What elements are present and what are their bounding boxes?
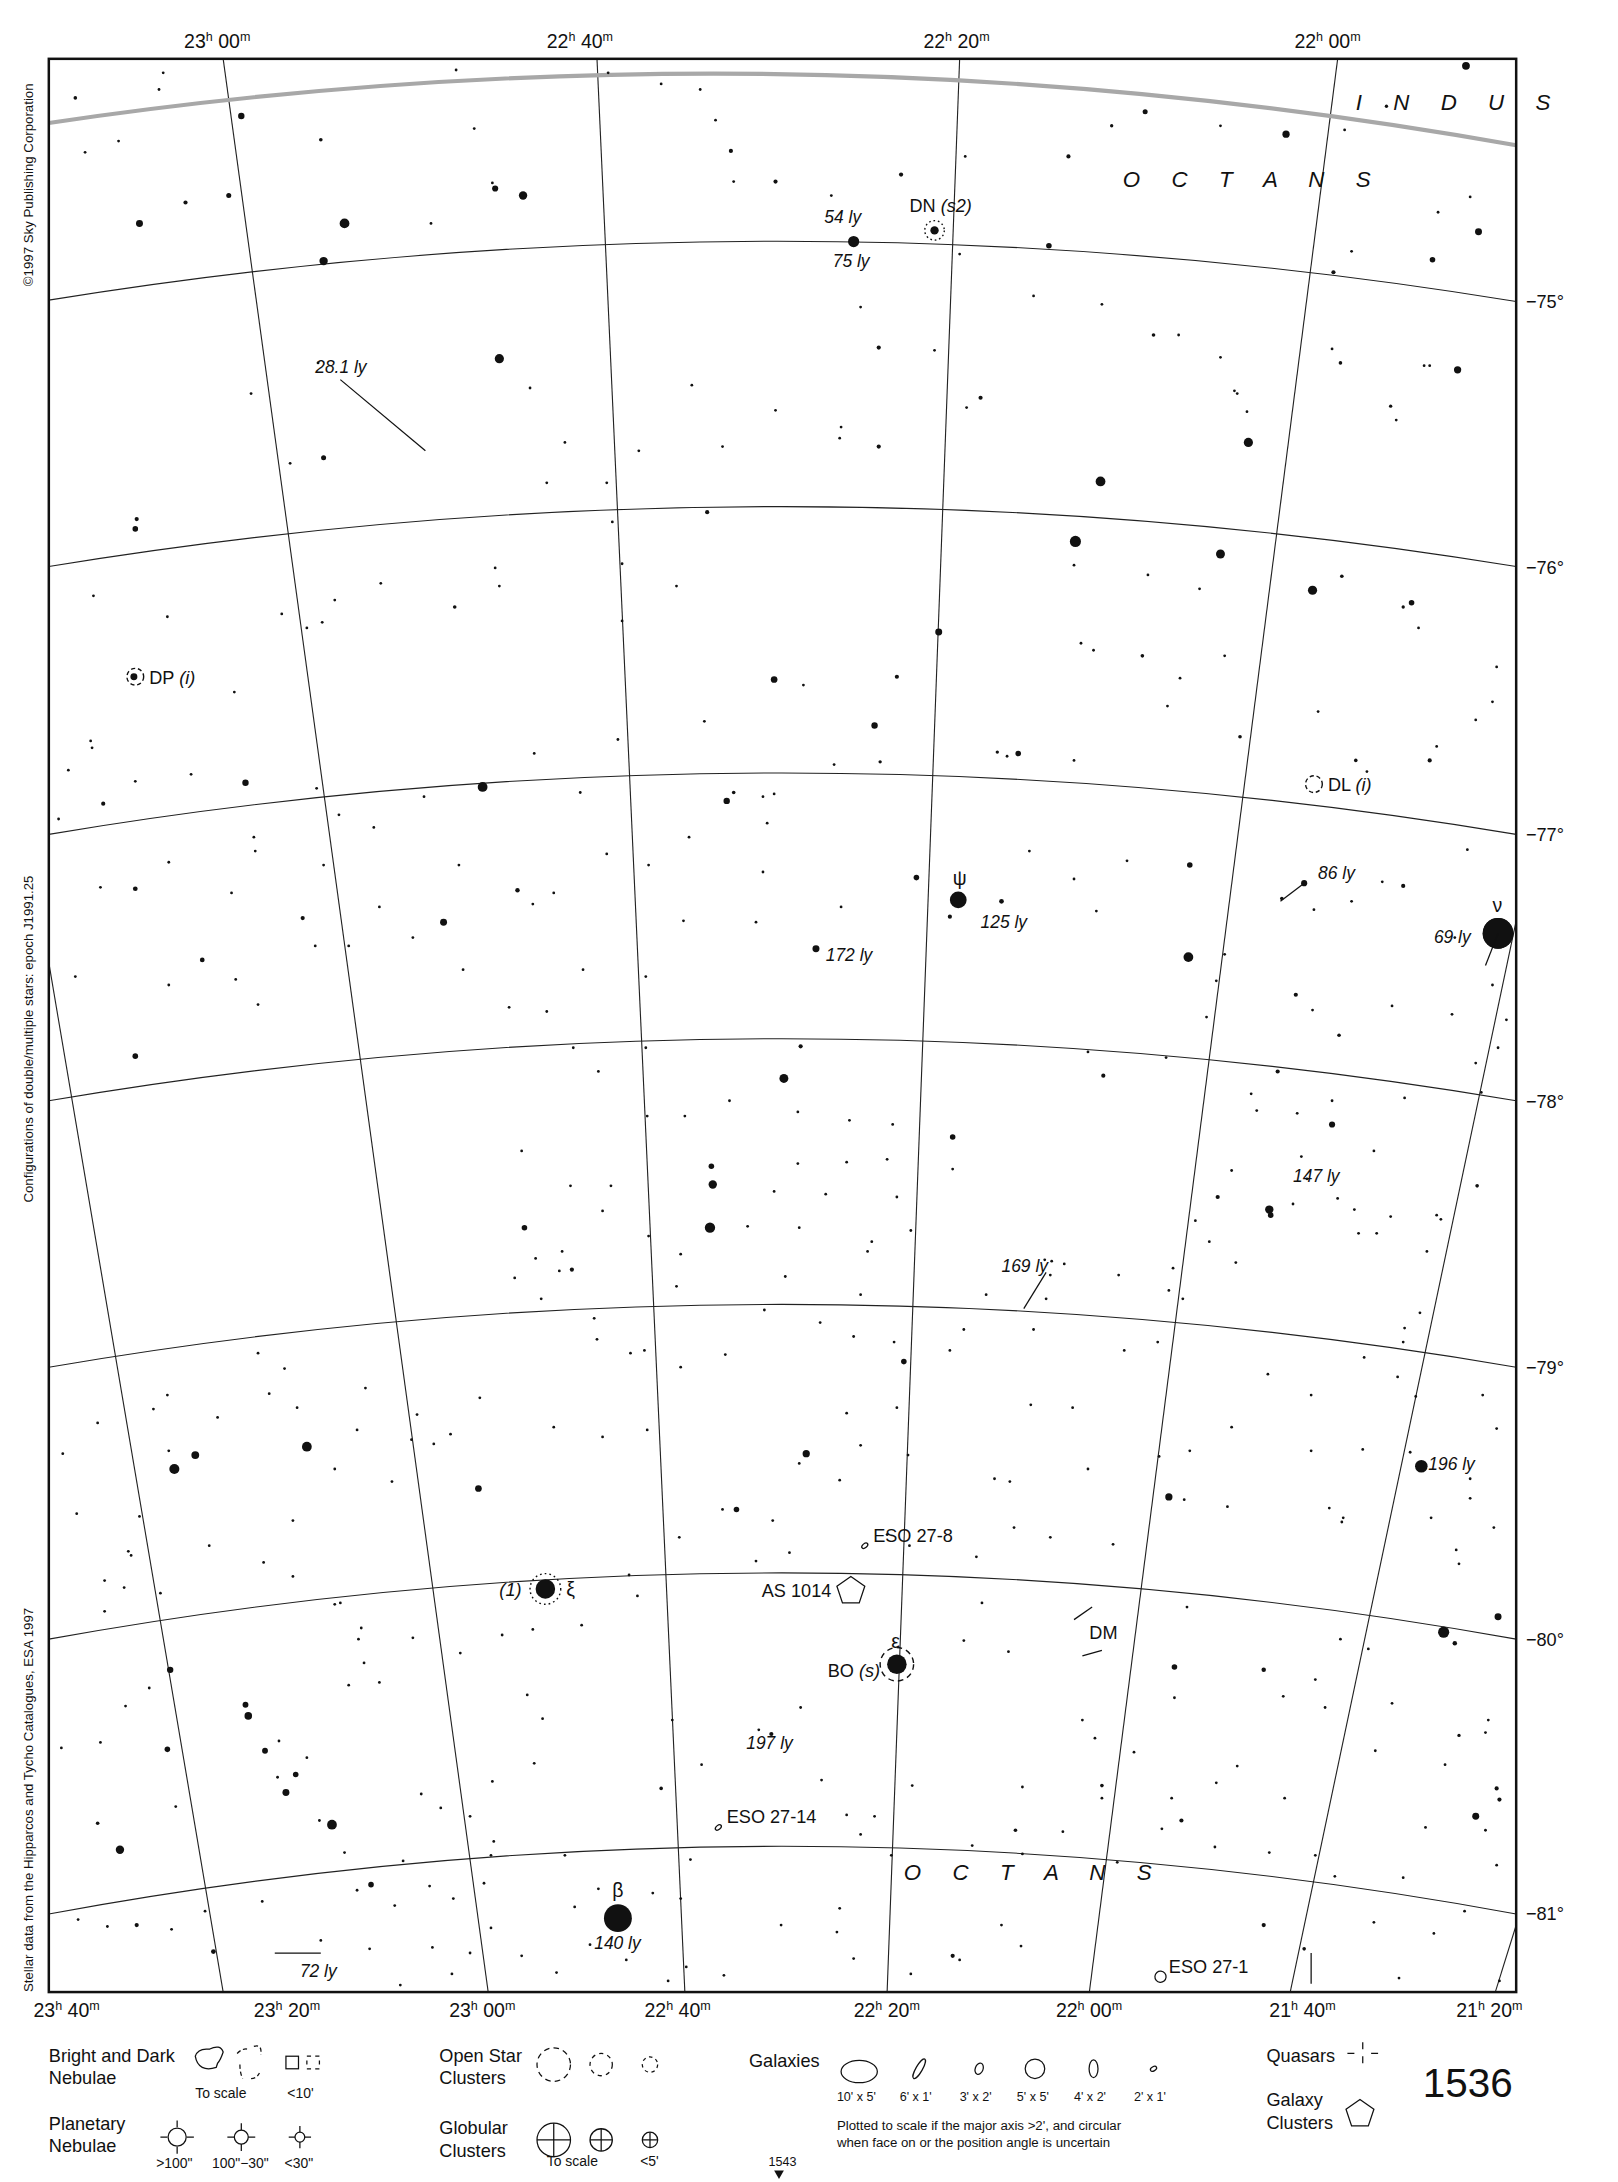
star — [1426, 1250, 1429, 1253]
star — [679, 1253, 682, 1256]
star — [1186, 1606, 1189, 1609]
globular-cluster-medium-icon — [590, 2129, 612, 2151]
adjacent-page-arrow-icon[interactable] — [774, 2171, 784, 2179]
star — [647, 864, 650, 867]
bright-star — [887, 1655, 907, 1675]
star — [1276, 1069, 1280, 1073]
star — [755, 1560, 758, 1563]
star — [208, 1544, 211, 1547]
star — [1029, 1403, 1032, 1406]
star — [734, 1507, 740, 1513]
distance-label: 75 ly — [833, 251, 871, 271]
star — [1402, 1876, 1405, 1879]
star — [675, 1285, 678, 1288]
star — [167, 861, 170, 864]
star — [347, 945, 350, 948]
star — [1317, 710, 1320, 713]
star — [605, 481, 608, 484]
star — [1205, 1016, 1208, 1019]
star — [169, 1464, 179, 1474]
star — [930, 226, 938, 234]
star — [283, 1367, 286, 1370]
star — [838, 1907, 841, 1910]
star — [838, 1479, 841, 1482]
ra-grid-line — [1495, 1925, 1516, 1992]
star — [766, 822, 769, 825]
dec-grid-line — [49, 773, 1516, 834]
deep-sky-label: ESO 27-1 — [1169, 1957, 1249, 1977]
greek-letter-label: ξ — [566, 1578, 575, 1600]
star — [1070, 536, 1081, 547]
star — [289, 462, 292, 465]
distance-label: 172 ly — [826, 945, 874, 965]
star — [1032, 295, 1035, 298]
star — [60, 1747, 63, 1750]
star — [166, 615, 169, 618]
star — [127, 1550, 130, 1553]
star — [845, 1814, 848, 1817]
star — [728, 1099, 731, 1102]
distance-label: 28.1 ly — [314, 357, 368, 377]
star — [935, 629, 942, 636]
distance-label: 147 ly — [1293, 1166, 1341, 1186]
star — [1215, 979, 1218, 982]
star — [541, 1717, 544, 1720]
star — [230, 892, 233, 895]
star — [494, 567, 497, 570]
dec-axis-label: −80° — [1526, 1630, 1564, 1650]
star — [914, 875, 920, 881]
star — [1414, 1395, 1417, 1398]
star — [1391, 1005, 1394, 1008]
dec-grid-line — [49, 241, 1516, 301]
ra-grid-line — [887, 59, 960, 1992]
star — [1073, 878, 1076, 881]
star — [1021, 1786, 1024, 1789]
star — [845, 1161, 848, 1164]
distance-label: 169 ly — [1001, 1256, 1049, 1276]
star — [597, 1887, 600, 1890]
star — [1143, 109, 1148, 114]
star — [138, 1515, 141, 1518]
star — [705, 510, 709, 514]
ra-axis-label: 22h 40m — [644, 1999, 710, 2021]
star — [1296, 1112, 1299, 1115]
star — [671, 1719, 674, 1722]
star — [819, 1321, 822, 1324]
star — [1244, 438, 1253, 447]
star — [363, 1661, 366, 1664]
star — [555, 1971, 558, 1974]
deep-sky-label: ESO 27-8 — [873, 1526, 953, 1546]
star — [773, 1190, 776, 1193]
proper-motion-arrow-icon — [1024, 1272, 1046, 1308]
star — [1014, 1828, 1018, 1832]
star — [200, 958, 205, 963]
star — [981, 1602, 984, 1605]
star — [803, 1450, 810, 1457]
star — [699, 88, 702, 91]
star — [1133, 1751, 1136, 1754]
star — [252, 836, 255, 839]
legend-label: Globular — [439, 2118, 508, 2138]
star — [909, 1973, 912, 1976]
star — [1498, 1980, 1501, 1983]
star — [1373, 1150, 1376, 1153]
star — [1101, 1797, 1104, 1800]
star — [159, 1592, 162, 1595]
star — [1451, 1013, 1454, 1016]
star — [166, 1394, 169, 1397]
star — [569, 1184, 572, 1187]
star — [1100, 1784, 1104, 1788]
epoch-note: Configurations of double/multiple stars:… — [21, 876, 36, 1203]
star — [1391, 1702, 1394, 1705]
star — [859, 1833, 862, 1836]
star — [580, 1624, 583, 1627]
star — [1353, 1208, 1356, 1211]
adjacent-page-link[interactable]: 1543 — [769, 2155, 797, 2169]
galaxy-cluster-icon — [837, 1576, 865, 1603]
star — [305, 1756, 308, 1759]
star — [432, 1442, 435, 1445]
star — [1179, 1818, 1183, 1822]
star — [1172, 1267, 1175, 1270]
star — [951, 1954, 955, 1958]
star — [962, 1639, 965, 1642]
